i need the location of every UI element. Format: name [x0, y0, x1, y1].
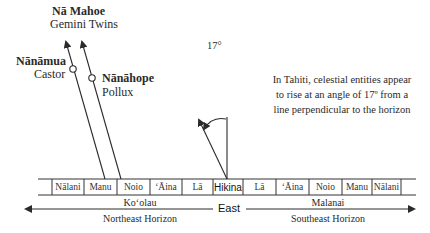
horizon-cell: Noio	[309, 180, 342, 195]
gemini-rising-arrows	[66, 42, 121, 179]
horizon-cell: ʻĀina	[150, 180, 182, 195]
pollux-english-label: Pollux	[102, 85, 133, 100]
horizon-cell: Lā	[243, 180, 276, 195]
right-direction-name: Malanai	[258, 197, 398, 208]
left-direction-name: Koʻolau	[80, 197, 200, 208]
horizon-cell: Manu	[342, 180, 372, 195]
east-label: East	[218, 202, 240, 214]
group-english-label: Gemini Twins	[50, 17, 118, 32]
left-direction-description: Northeast Horizon	[70, 213, 210, 224]
right-direction-description: Southeast Horizon	[258, 213, 398, 224]
horizon-cell: ʻĀina	[276, 180, 309, 195]
horizon-cell-center: Hikina	[213, 180, 243, 195]
castor-english-label: Castor	[34, 67, 65, 82]
pollux-name-label: Nānāhope	[102, 71, 154, 86]
horizon-cell: Nālani	[372, 180, 401, 195]
angle-label: 17°	[207, 40, 222, 51]
tahiti-note: In Tahiti, celestial entities appear to …	[268, 72, 416, 117]
angle-diagram	[199, 117, 227, 179]
horizon-cell: Nālani	[52, 180, 84, 195]
horizon-cell: Lā	[182, 180, 213, 195]
horizon-cell: Noio	[117, 180, 150, 195]
horizon-cell: Manu	[84, 180, 117, 195]
